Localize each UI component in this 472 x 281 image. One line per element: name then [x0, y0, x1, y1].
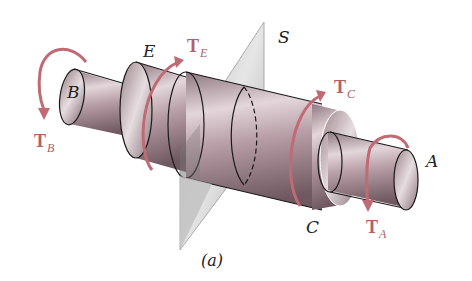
label-c: C	[306, 217, 319, 237]
torque-label-te: T E	[187, 36, 208, 60]
svg-text:C: C	[347, 87, 356, 101]
svg-text:B: B	[47, 141, 55, 155]
torque-label-tc: T C	[334, 77, 356, 101]
shaft-segment-e	[120, 62, 186, 172]
svg-text:T: T	[34, 131, 46, 151]
label-b: B	[66, 82, 80, 102]
svg-text:T: T	[334, 77, 346, 97]
figure-caption: (a)	[201, 251, 223, 270]
label-a: A	[424, 151, 438, 171]
label-s: S	[278, 27, 290, 47]
svg-text:T: T	[187, 36, 199, 56]
svg-text:E: E	[199, 46, 208, 60]
label-e: E	[142, 41, 156, 61]
end-face-a	[394, 150, 418, 210]
svg-text:A: A	[378, 227, 387, 241]
torque-label-ta: T A	[366, 217, 387, 241]
torque-label-tb: T B	[34, 131, 55, 155]
shaft-torsion-diagram: B E S C A (a) T B T E T C T A	[0, 0, 472, 281]
svg-text:T: T	[366, 217, 378, 237]
